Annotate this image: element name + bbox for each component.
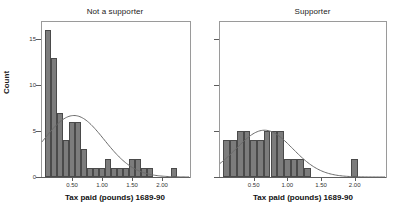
histogram-figure: Not a supporter Count Tax paid (pounds) …	[0, 0, 395, 216]
y-axis-tick-label: 5	[14, 128, 36, 134]
x-axis-tick	[102, 177, 103, 181]
histogram-bar	[277, 131, 284, 177]
y-axis-tick	[36, 39, 41, 40]
x-axis-title-right: Tax paid (pounds) 1689-90	[219, 193, 387, 202]
y-axis-title: Count	[2, 71, 11, 94]
y-axis-tick-label: 15	[14, 36, 36, 42]
x-axis-tick-label: 1.00	[96, 182, 108, 188]
panel-title-not-a-supporter: Not a supporter	[41, 7, 189, 16]
x-axis-tick	[132, 177, 133, 181]
x-axis-tick-label: 0.50	[66, 182, 78, 188]
histogram-bar	[257, 140, 264, 177]
y-axis-tick	[36, 85, 41, 86]
bars-supporter	[220, 21, 385, 177]
x-axis-line-left	[41, 177, 190, 178]
y-axis-tick	[214, 85, 219, 86]
x-axis-tick-label: 2.00	[156, 182, 168, 188]
x-axis-line-right	[219, 177, 386, 178]
x-axis-tick-label: 1.50	[126, 182, 138, 188]
histogram-bar	[291, 159, 298, 177]
histogram-bar	[223, 140, 230, 177]
panel-title-supporter: Supporter	[238, 7, 387, 16]
x-axis-tick-label: 1.50	[315, 182, 327, 188]
histogram-bar	[147, 168, 153, 177]
x-axis-tick-label: 1.00	[282, 182, 294, 188]
histogram-bar	[244, 131, 251, 177]
bars-not-a-supporter	[42, 21, 189, 177]
y-axis-tick	[36, 131, 41, 132]
histogram-bar	[304, 168, 311, 177]
x-axis-tick	[254, 177, 255, 181]
y-axis-tick-label: 0	[14, 174, 36, 180]
panel-title-band: Not a supporter	[41, 8, 189, 22]
x-axis-tick-label: 0.50	[248, 182, 260, 188]
x-axis-tick	[287, 177, 288, 181]
histogram-bar	[297, 159, 304, 177]
histogram-bar	[250, 140, 257, 177]
histogram-bar	[351, 159, 358, 177]
y-axis-tick	[36, 177, 41, 178]
histogram-bar	[264, 131, 271, 177]
x-axis-tick	[162, 177, 163, 181]
histogram-bar	[271, 131, 278, 177]
histogram-bar	[230, 140, 237, 177]
y-axis-tick	[214, 39, 219, 40]
y-axis-tick	[214, 177, 219, 178]
histogram-bar	[171, 168, 177, 177]
x-axis-title-left: Tax paid (pounds) 1689-90	[41, 193, 189, 202]
histogram-bar	[284, 159, 291, 177]
y-axis-tick-label: 10	[14, 82, 36, 88]
x-axis-tick	[355, 177, 356, 181]
panel-title-band: Supporter	[238, 8, 387, 22]
x-axis-tick-label: 2.00	[349, 182, 361, 188]
panel-supporter: Supporter Tax paid (pounds) 1689-90 0.50…	[197, 0, 395, 216]
panel-not-a-supporter: Not a supporter Count Tax paid (pounds) …	[0, 0, 197, 216]
x-axis-tick	[321, 177, 322, 181]
y-axis-tick	[214, 131, 219, 132]
histogram-bar	[237, 131, 244, 177]
x-axis-tick	[72, 177, 73, 181]
